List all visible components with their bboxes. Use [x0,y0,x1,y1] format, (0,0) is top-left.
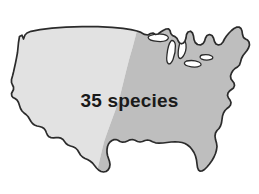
us-species-range-map: 35 species [0,0,259,194]
us-map-svg [0,0,259,194]
